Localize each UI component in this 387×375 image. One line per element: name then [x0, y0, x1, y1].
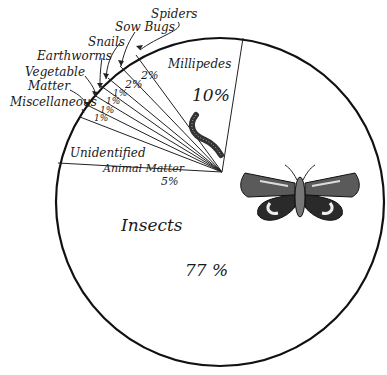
label-vegetable-matter-line2: Matter: [28, 80, 70, 92]
label-insects: Insects: [121, 217, 183, 234]
moth-illustration: [241, 165, 360, 220]
pct-millipedes: 10%: [192, 87, 230, 104]
pct-miscellaneous: 1%: [94, 114, 108, 123]
pct-unidentified: 5%: [161, 176, 178, 187]
pct-spiders: 2%: [141, 70, 158, 81]
millipede-illustration: [192, 115, 221, 155]
pct-insects: 77 %: [185, 262, 228, 279]
label-miscellaneous: Miscellaneous: [10, 96, 97, 108]
label-snails: Snails: [88, 36, 125, 48]
label-unidentified-line1: Unidentified: [70, 147, 146, 159]
label-unidentified-line2: Animal Matter: [103, 163, 184, 174]
label-millipedes: Millipedes: [168, 58, 231, 70]
label-earthworms: Earthworms: [37, 50, 112, 62]
pct-sow-bugs: 2%: [125, 79, 142, 90]
label-vegetable-matter-line1: Vegetable: [25, 66, 85, 78]
label-spiders: Spiders: [151, 8, 197, 20]
label-sow-bugs: Sow Bugs: [115, 21, 175, 33]
